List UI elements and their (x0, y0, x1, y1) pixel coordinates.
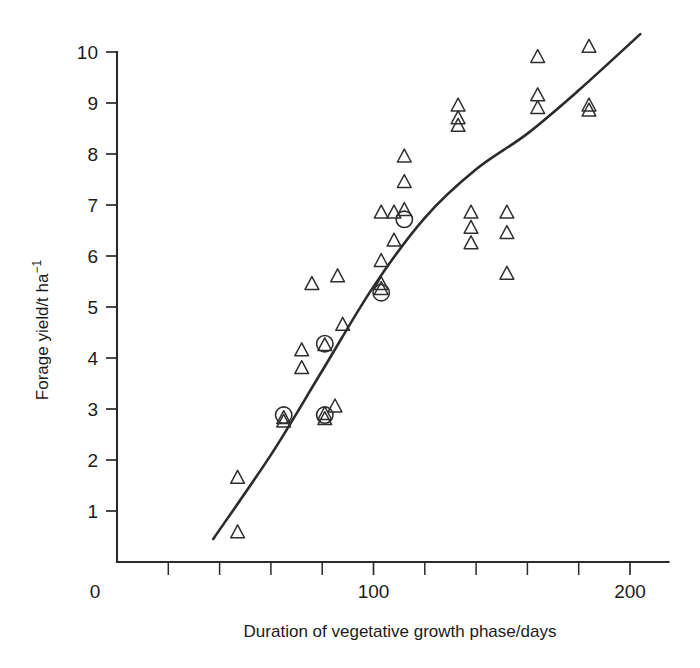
x-axis-tick-labels: 0100200 (90, 581, 646, 602)
data-point-triangle (582, 103, 596, 116)
data-point-triangle (318, 338, 332, 351)
y-tick-label: 6 (87, 246, 98, 267)
y-tick-label: 3 (87, 399, 98, 420)
triangle-data-points (231, 39, 596, 537)
data-point-triangle (231, 525, 245, 538)
fitted-curve (213, 34, 640, 539)
scatter-plot: 12345678910 0100200 Duration of vegetati… (0, 0, 700, 668)
figure-container: 12345678910 0100200 Duration of vegetati… (0, 0, 700, 668)
y-axis-title: Forage yield/t ha−1 (30, 260, 52, 401)
data-point-triangle (374, 254, 388, 267)
data-point-triangle (500, 226, 514, 239)
axes-group (117, 52, 668, 562)
y-tick-label: 8 (87, 144, 98, 165)
data-point-triangle (500, 205, 514, 218)
data-point-triangle (464, 236, 478, 249)
y-tick-label: 7 (87, 195, 98, 216)
data-point-circle (317, 407, 333, 423)
data-point-triangle (531, 88, 545, 101)
data-point-triangle (295, 343, 309, 356)
data-point-triangle (331, 269, 345, 282)
data-point-triangle (387, 233, 401, 246)
y-tick-label: 10 (77, 42, 98, 63)
y-axis-ticks (106, 52, 117, 511)
data-point-triangle (500, 266, 514, 279)
data-point-triangle (295, 361, 309, 374)
data-point-triangle (397, 175, 411, 188)
y-axis-title-text: Forage yield/t ha−1 (30, 260, 52, 401)
data-point-triangle (451, 98, 465, 111)
y-axis-tick-labels: 12345678910 (77, 42, 99, 522)
x-axis-title: Duration of vegetative growth phase/days (244, 622, 557, 641)
data-point-triangle (397, 149, 411, 162)
data-point-triangle (464, 220, 478, 233)
data-point-triangle (231, 470, 245, 483)
x-tick-label: 200 (614, 581, 646, 602)
x-tick-label: 100 (358, 581, 390, 602)
data-point-triangle (305, 277, 319, 290)
x-axis-ticks (168, 562, 630, 575)
data-point-triangle (464, 205, 478, 218)
x-tick-label: 0 (90, 581, 101, 602)
circle-data-points (276, 211, 413, 423)
fitted-curve-path (213, 34, 640, 539)
data-point-circle (396, 211, 412, 227)
y-tick-label: 5 (87, 297, 98, 318)
y-tick-label: 4 (87, 348, 98, 369)
data-point-triangle (531, 50, 545, 63)
data-point-triangle (531, 101, 545, 114)
data-point-triangle (451, 111, 465, 124)
data-point-triangle (374, 205, 388, 218)
y-tick-label: 2 (87, 450, 98, 471)
data-point-triangle (582, 39, 596, 52)
y-tick-label: 9 (87, 93, 98, 114)
y-tick-label: 1 (87, 501, 98, 522)
